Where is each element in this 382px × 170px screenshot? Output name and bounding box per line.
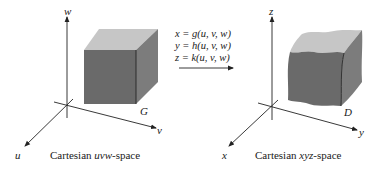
- region-G-label: G: [140, 106, 148, 117]
- equation-x: x = g(u, v, w): [175, 28, 231, 40]
- transformation-equations: x = g(u, v, w) y = h(u, v, w) z = k(u, v…: [175, 28, 231, 64]
- z-axis-label: z: [269, 6, 273, 17]
- equation-y: y = h(u, v, w): [175, 40, 231, 52]
- diagram-canvas: [0, 0, 382, 170]
- v-axis-label: v: [157, 125, 162, 136]
- w-axis-label: w: [64, 6, 71, 17]
- x-axis: [229, 100, 278, 146]
- x-axis-label: x: [222, 150, 227, 161]
- y-axis-label: y: [359, 127, 364, 138]
- uvw-space-caption: Cartesian uvw-space: [50, 150, 140, 161]
- cube-front-face: [84, 50, 136, 104]
- region-G-cube: [84, 29, 158, 104]
- deformed-front-face: [288, 51, 344, 106]
- region-D-deformed-cube: [288, 30, 362, 106]
- y-axis: [258, 103, 357, 130]
- u-axis: [25, 99, 73, 146]
- region-D-label: D: [344, 107, 352, 118]
- u-axis-label: u: [15, 150, 21, 161]
- xyz-space-caption: Cartesian xyz-space: [255, 150, 341, 161]
- equation-z: z = k(u, v, w): [175, 52, 231, 64]
